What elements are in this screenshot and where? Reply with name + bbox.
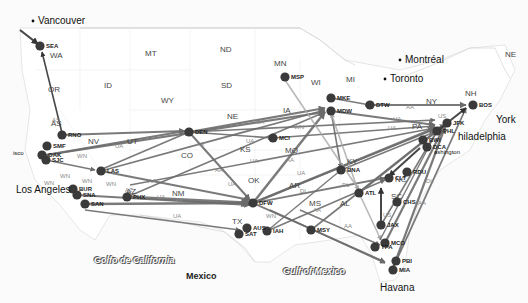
city-label: Havana <box>380 283 414 293</box>
carrier-label: AA <box>313 207 321 213</box>
state-label: KS <box>240 146 251 154</box>
carrier-label: DL <box>426 178 434 184</box>
state-label: WY <box>161 97 174 105</box>
airport-code-label: BOS <box>479 102 492 108</box>
state-label: NE <box>227 113 238 121</box>
city-dot <box>32 20 35 23</box>
airport-marker-bna[interactable] <box>336 165 345 174</box>
airport-marker-sea[interactable] <box>35 41 44 50</box>
airport-code-label: SMF <box>53 143 66 149</box>
airport-code-label: RDU <box>413 169 426 175</box>
airport-code-label: MKE <box>337 95 350 101</box>
airport-code-label: IAH <box>273 228 283 234</box>
airport-marker-mdw[interactable] <box>326 106 335 115</box>
state-label: OK <box>248 177 260 185</box>
airport-code-label: SEA <box>46 43 58 49</box>
city-label: Montréal <box>405 55 444 65</box>
carrier-label: AZ <box>125 187 133 193</box>
state-label: CO <box>181 152 193 160</box>
airport-marker-pbi[interactable] <box>391 256 400 265</box>
airport-code-label: MCI <box>279 135 290 141</box>
airport-code-label: MCO <box>391 240 405 246</box>
carrier-label: AA <box>286 157 294 163</box>
state-label: SC <box>391 193 402 201</box>
airport-code-label: SJC <box>52 157 64 163</box>
airport-marker-atl[interactable] <box>354 188 363 197</box>
carrier-label: AA <box>215 167 223 173</box>
carrier-label: UA <box>228 181 236 187</box>
airport-code-label: JAX <box>387 222 399 228</box>
carrier-label: UA <box>173 213 181 219</box>
state-label: WI <box>311 79 321 87</box>
state-label: WA <box>50 52 63 60</box>
country-label: Mexico <box>186 272 217 281</box>
city-label: Los Angeles <box>16 185 71 195</box>
airport-marker-dca[interactable] <box>422 142 431 151</box>
state-label: IA <box>283 107 291 115</box>
state-label: MN <box>274 60 286 68</box>
airport-marker-san[interactable] <box>80 199 89 208</box>
airport-code-label: JFK <box>453 120 464 126</box>
airport-marker-rno[interactable] <box>57 130 66 139</box>
state-label: OR <box>48 86 60 94</box>
airport-marker-dtw[interactable] <box>365 100 374 109</box>
state-label: NE <box>505 51 516 59</box>
carrier-label: WN <box>60 173 70 179</box>
state-label: ND <box>220 46 232 54</box>
water-label: Golfo de California <box>94 256 175 265</box>
airport-code-label: ATL <box>365 190 376 196</box>
airport-marker-clt[interactable] <box>384 173 393 182</box>
airport-marker-bos[interactable] <box>468 100 477 109</box>
airport-code-label: SAT <box>245 231 257 237</box>
airport-marker-jax[interactable] <box>376 220 385 229</box>
airport-code-label: BWI <box>429 137 441 143</box>
airport-marker-mke[interactable] <box>326 93 335 102</box>
airport-marker-den[interactable] <box>184 127 193 136</box>
state-label: MT <box>145 50 157 58</box>
water-label: Gulf of Mexico <box>283 267 345 276</box>
airport-marker-msy[interactable] <box>306 225 315 234</box>
carrier-label: AA <box>344 223 352 229</box>
airport-marker-mia[interactable] <box>388 265 397 274</box>
airport-marker-phl[interactable] <box>432 126 441 135</box>
route-map[interactable]: SEARNOSMFOAKSJCLASBURSNASANPHXDENMCIMSPM… <box>0 0 528 303</box>
airport-marker-dfw[interactable] <box>248 198 257 207</box>
airport-code-label: SAN <box>91 201 104 207</box>
city-label: Vancouver <box>38 16 85 26</box>
airport-marker-smf[interactable] <box>42 141 51 150</box>
carrier-label: AA <box>406 104 414 110</box>
airport-marker-las[interactable] <box>96 166 105 175</box>
airport-code-label: LAS <box>107 168 119 174</box>
city-label: ashington <box>434 149 460 155</box>
state-label: MO <box>285 147 298 155</box>
airport-code-label: DTW <box>376 102 390 108</box>
carrier-label: UA <box>297 170 305 176</box>
carrier-label: UA <box>250 158 258 164</box>
state-label: ID <box>104 82 112 90</box>
carrier-label: WN <box>294 124 304 130</box>
carrier-label: DL <box>300 188 308 194</box>
city-label: isco <box>13 150 24 156</box>
carrier-label: AA <box>418 200 426 206</box>
airport-marker-msp[interactable] <box>280 72 289 81</box>
carrier-label: AA <box>196 141 204 147</box>
carrier-label: UA <box>246 138 254 144</box>
state-label: KY <box>347 158 358 166</box>
airport-marker-jfk[interactable] <box>442 118 451 127</box>
state-label: TX <box>232 218 242 226</box>
airport-code-label: DEN <box>195 129 208 135</box>
carrier-label: WN <box>106 181 116 187</box>
city-dot <box>384 78 387 81</box>
airport-marker-mci[interactable] <box>268 133 277 142</box>
state-label: UT <box>127 138 138 146</box>
airport-code-label: PBI <box>402 258 412 264</box>
airport-marker-sat[interactable] <box>234 229 243 238</box>
carrier-label: UA <box>115 143 123 149</box>
airport-marker-tpa[interactable] <box>370 242 379 251</box>
city-dot <box>399 59 402 62</box>
airport-code-label: DFW <box>259 200 273 206</box>
carrier-label: UA <box>393 116 401 122</box>
airport-code-label: CHS <box>403 199 416 205</box>
state-label: MI <box>346 76 355 84</box>
city-label: Toronto <box>390 74 423 84</box>
